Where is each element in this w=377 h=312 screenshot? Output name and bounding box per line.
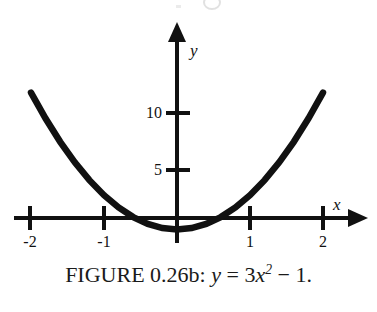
x-tick-label-2: 2	[308, 234, 338, 250]
y-tick-label-5: 5	[128, 162, 162, 178]
y-axis-arrowhead-icon	[168, 22, 186, 42]
caption-coefficient: 3	[244, 262, 255, 287]
x-axis-arrowhead-icon	[348, 209, 368, 227]
caption-constant: 1	[295, 262, 306, 287]
figure-caption: FIGURE 0.26b: y = 3x2 − 1.	[0, 262, 377, 288]
parabola-plot	[0, 0, 377, 262]
caption-equals: =	[226, 262, 238, 287]
x-tick-label-minus2: -2	[15, 234, 45, 250]
caption-exponent: 2	[265, 262, 272, 277]
y-tick-label-10: 10	[128, 105, 162, 121]
caption-period: .	[306, 262, 312, 287]
y-axis-label: y	[190, 42, 198, 59]
x-axis-label: x	[333, 196, 341, 213]
figure-page: y x 10 5 -2 -1 1 2 FIGURE 0.26b: y = 3x2…	[0, 0, 377, 312]
caption-variable: x	[255, 262, 265, 287]
caption-lhs: y	[211, 262, 221, 287]
caption-prefix: FIGURE 0.26b:	[65, 262, 206, 287]
x-tick-label-minus1: -1	[89, 234, 119, 250]
caption-minus: −	[277, 262, 289, 287]
x-tick-label-1: 1	[235, 234, 265, 250]
